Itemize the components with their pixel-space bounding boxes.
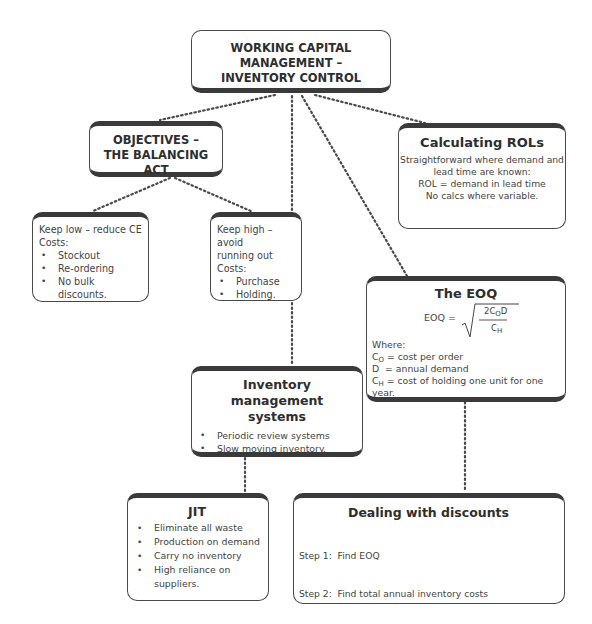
- list-item: Slow moving inventory.: [195, 442, 356, 455]
- discounts-node: Dealing with discounts Step 1: Find EOQ …: [293, 493, 565, 604]
- list-item: Periodic review systems: [195, 429, 356, 442]
- objectives-title-line1: OBJECTIVES –: [90, 133, 222, 148]
- systems-title-line2: systems: [198, 409, 356, 425]
- list-item: Production on demand: [132, 535, 262, 549]
- eoq-numerator: 2COD: [484, 306, 507, 316]
- eoq-where-label: Where:: [372, 339, 561, 351]
- root-title-line2: INVENTORY CONTROL: [192, 71, 390, 86]
- rol-line: No calcs where variable.: [399, 190, 565, 202]
- root-node: WORKING CAPITAL MANAGEMENT – INVENTORY C…: [191, 30, 391, 93]
- list-item: High reliance on suppliers.: [132, 563, 262, 591]
- discounts-title: Dealing with discounts: [299, 504, 558, 522]
- rol-node: Calculating ROLs Straightforward where d…: [398, 123, 566, 229]
- list-item: Carry no inventory: [132, 549, 262, 563]
- list-item: Eliminate all waste: [132, 521, 262, 535]
- jit-node: JIT Eliminate all waste Production on de…: [127, 493, 269, 601]
- list-item: Holding.: [214, 288, 296, 301]
- discount-step: Step 1: Find EOQ: [299, 550, 558, 563]
- eoq-definition: D = annual demand: [372, 363, 561, 375]
- rol-title: Calculating ROLs: [399, 134, 565, 152]
- eoq-formula-lhs: EOQ =: [424, 312, 456, 323]
- list-item: Re-ordering: [36, 262, 142, 275]
- rol-line: ROL = demand in lead time: [399, 178, 565, 190]
- keep-high-heading-line1: Keep high – avoid: [217, 223, 296, 249]
- objectives-title-line2: THE BALANCING ACT: [90, 148, 222, 178]
- list-item: Stockout: [36, 249, 142, 262]
- objectives-node: OBJECTIVES – THE BALANCING ACT: [89, 121, 223, 177]
- jit-title: JIT: [132, 503, 262, 520]
- keep-high-node: Keep high – avoid running out Costs: Pur…: [210, 212, 302, 301]
- discount-step: Step 2: Find total annual inventory cost…: [299, 588, 558, 601]
- eoq-title: The EOQ: [371, 285, 561, 303]
- keep-low-costs-label: Costs:: [39, 236, 142, 249]
- keep-low-heading: Keep low – reduce CE: [39, 223, 142, 236]
- rol-line: lead time are known:: [399, 166, 565, 178]
- keep-high-costs-label: Costs:: [217, 262, 296, 275]
- eoq-node: The EOQ EOQ = 2COD CH Where: CO = cost p…: [366, 276, 566, 402]
- systems-node: Inventory management systems Periodic re…: [191, 366, 363, 457]
- eoq-denominator: CH: [491, 323, 502, 333]
- list-item: No bulk discounts.: [36, 275, 142, 301]
- list-item: Purchase: [214, 275, 296, 288]
- systems-title-line1: Inventory management: [198, 377, 356, 409]
- eoq-definition: CH = cost of holding one unit for one ye…: [372, 375, 561, 399]
- keep-high-heading-line2: running out: [217, 249, 296, 262]
- keep-low-node: Keep low – reduce CE Costs: Stockout Re-…: [32, 212, 149, 302]
- eoq-definition: CO = cost per order: [372, 351, 561, 363]
- rol-line: Straightforward where demand and: [399, 154, 565, 166]
- root-title-line1: WORKING CAPITAL MANAGEMENT –: [192, 41, 390, 71]
- eoq-formula: EOQ = 2COD CH: [371, 303, 561, 339]
